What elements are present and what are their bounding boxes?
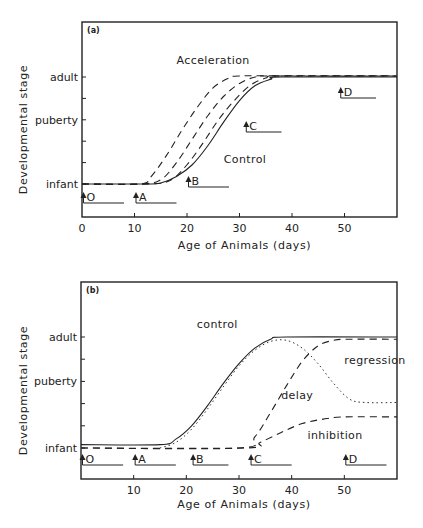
x-tick-label: 20 [180, 222, 194, 235]
y-tick-label: adult [50, 71, 79, 84]
panel-label: (b) [86, 286, 99, 295]
x-axis-label: Age of Animals (days) [178, 239, 311, 252]
x-tick-label: 40 [285, 484, 299, 497]
panel-b-chart: (b)infantpubertyadult1020304050Age of An… [17, 282, 406, 511]
x-tick-label: 20 [179, 484, 193, 497]
marker-d: D [338, 86, 376, 99]
y-tick-label: puberty [34, 375, 78, 388]
panel-label: (a) [87, 26, 100, 35]
x-tick-label: 50 [337, 484, 351, 497]
x-tick-label: 30 [233, 222, 247, 235]
x-tick-label: 50 [338, 222, 352, 235]
x-axis-label: Age of Animals (days) [177, 498, 310, 511]
x-tick-label: 0 [79, 222, 86, 235]
annotation-inhibition: inhibition [307, 429, 362, 442]
x-tick-label: 40 [285, 222, 299, 235]
y-tick-label: puberty [35, 114, 79, 127]
marker-label: B [196, 453, 204, 466]
marker-label: O [86, 453, 95, 466]
y-tick-label: infant [45, 442, 78, 455]
marker-label: C [249, 120, 257, 133]
annotation-acceleration: Acceleration [177, 54, 250, 67]
x-tick-label: 10 [127, 484, 141, 497]
marker-a: A [132, 453, 176, 466]
figure: (a)infantpubertyadult01020304050Age of A… [0, 0, 423, 528]
marker-o: O [81, 191, 125, 204]
marker-b: B [186, 175, 230, 188]
marker-label: C [254, 453, 262, 466]
annotation-control: Control [224, 153, 267, 166]
marker-label: O [87, 191, 96, 204]
panel-a-chart: (a)infantpubertyadult01020304050Age of A… [17, 22, 397, 252]
x-tick-label: 10 [128, 222, 142, 235]
marker-b: B [190, 453, 228, 466]
marker-a: A [133, 191, 177, 204]
marker-c: C [243, 120, 281, 133]
plot-frame [81, 282, 397, 479]
y-axis-label: Developmental stage [17, 326, 30, 455]
annotation-delay: delay [281, 389, 313, 402]
x-tick-label: 30 [232, 484, 246, 497]
marker-o: O [80, 453, 124, 466]
marker-label: B [192, 175, 200, 188]
marker-label: A [138, 453, 146, 466]
marker-label: A [139, 191, 147, 204]
marker-c: C [248, 453, 292, 466]
annotation-regression: regression [344, 354, 405, 367]
marker-d: D [343, 453, 387, 466]
y-tick-label: infant [46, 178, 79, 191]
y-axis-label: Developmental stage [17, 65, 30, 194]
plot-frame [82, 22, 397, 217]
annotation-control: control [197, 318, 238, 331]
y-tick-label: adult [49, 331, 78, 344]
marker-label: D [349, 453, 357, 466]
marker-label: D [344, 86, 352, 99]
